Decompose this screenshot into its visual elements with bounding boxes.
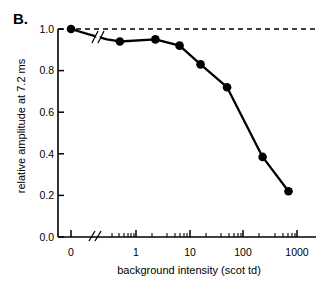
data-point bbox=[116, 37, 125, 46]
data-point bbox=[175, 41, 184, 50]
data-line-relative-amplitude bbox=[71, 29, 288, 191]
figure-panel: B. relative amplitude at 7.2 ms backgrou… bbox=[0, 0, 325, 287]
data-point bbox=[196, 60, 205, 69]
data-markers bbox=[67, 25, 293, 196]
x-axis-break-icon bbox=[89, 231, 101, 241]
data-point bbox=[67, 25, 76, 34]
plot-canvas bbox=[0, 0, 325, 287]
y-axis-ticks bbox=[58, 29, 64, 237]
data-point bbox=[284, 187, 293, 196]
data-point bbox=[223, 83, 232, 92]
data-point bbox=[151, 35, 160, 44]
data-point bbox=[258, 153, 267, 162]
